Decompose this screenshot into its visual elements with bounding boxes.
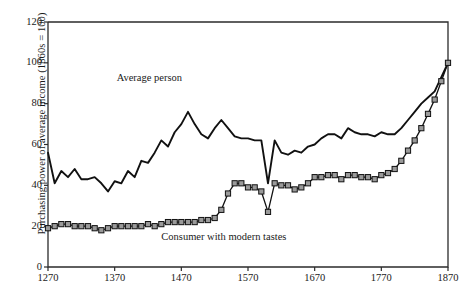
series-marker [85,224,90,229]
data-series-group [45,60,450,233]
series-marker [132,224,137,229]
series-marker [252,185,257,190]
series-marker [199,217,204,222]
series-marker [332,173,337,178]
series-marker [399,158,404,163]
series-marker [52,224,57,229]
series-marker [45,226,50,231]
series-marker [339,177,344,182]
series-marker [185,219,190,224]
series-marker [392,166,397,171]
series-marker [159,222,164,227]
series-line-1 [48,63,448,230]
series-marker [125,224,130,229]
series-marker [305,181,310,186]
series-marker [79,224,84,229]
series-marker [92,226,97,231]
series-marker [225,191,230,196]
series-label-average-person: Average person [117,72,182,83]
series-marker [372,177,377,182]
series-marker [232,181,237,186]
series-marker [165,219,170,224]
series-marker [319,175,324,180]
series-marker [425,111,430,116]
series-marker [272,181,277,186]
series-marker [259,189,264,194]
series-marker [152,224,157,229]
series-marker [419,126,424,131]
series-marker [239,181,244,186]
series-marker [412,138,417,143]
series-marker [245,185,250,190]
series-marker [205,217,210,222]
series-marker [72,224,77,229]
chart-figure: Purchasing power of average income (1860… [0,0,472,304]
series-marker [359,175,364,180]
series-marker [192,219,197,224]
series-marker [439,79,444,84]
series-marker [385,170,390,175]
series-marker [145,222,150,227]
series-marker [59,222,64,227]
series-marker [172,219,177,224]
series-marker [212,215,217,220]
series-marker [112,224,117,229]
series-marker [345,173,350,178]
series-marker [352,173,357,178]
series-marker [299,185,304,190]
series-marker [139,224,144,229]
series-marker [279,183,284,188]
series-marker [405,148,410,153]
series-marker [219,207,224,212]
series-marker [312,175,317,180]
series-marker [105,226,110,231]
series-marker [65,222,70,227]
series-marker [119,224,124,229]
series-marker [445,60,450,65]
series-marker [379,173,384,178]
series-marker [325,173,330,178]
series-marker [292,187,297,192]
series-marker [365,175,370,180]
series-marker [99,228,104,233]
plot-area [0,0,472,304]
series-marker [179,219,184,224]
series-marker [285,183,290,188]
series-marker [265,209,270,214]
series-label-modern-consumer: Consumer with modern tastes [161,231,286,242]
series-marker [432,97,437,102]
